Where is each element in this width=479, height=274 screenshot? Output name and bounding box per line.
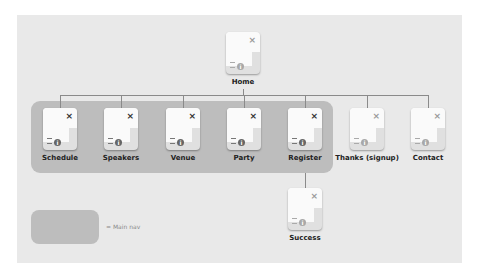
list-icon[interactable] [108,138,113,144]
list-icon[interactable] [354,138,359,144]
info-icon[interactable]: i [115,139,122,146]
page-card[interactable]: × i [226,32,260,74]
connector-drop [428,95,429,108]
list-icon[interactable] [170,138,175,144]
page-card[interactable]: × i [227,108,261,150]
info-icon[interactable]: i [361,139,368,146]
close-icon[interactable]: × [188,112,196,121]
page-card[interactable]: × i [288,108,322,150]
connector-drop [367,95,368,108]
info-icon[interactable]: i [422,139,429,146]
page-card[interactable]: × i [43,108,77,150]
close-icon[interactable]: × [126,112,134,121]
page-card[interactable]: × i [104,108,138,150]
info-icon[interactable]: i [54,139,61,146]
legend-swatch [31,210,99,244]
info-icon[interactable]: i [299,219,306,226]
page-node-contact[interactable]: × i Contact [388,108,468,170]
connector-drop [183,95,184,108]
close-icon[interactable]: × [372,112,380,121]
page-label: Success [265,234,345,242]
list-icon[interactable] [47,138,52,144]
legend-label: = Main nav [106,223,140,230]
list-icon[interactable] [231,138,236,144]
list-icon[interactable] [292,138,297,144]
page-card[interactable]: × i [166,108,200,150]
page-label: Home [203,78,283,86]
connector-drop [121,95,122,108]
info-icon[interactable]: i [177,139,184,146]
list-icon[interactable] [292,218,297,224]
page-node-home[interactable]: × i Home [203,32,283,94]
connector-drop [305,95,306,108]
close-icon[interactable]: × [310,192,318,201]
list-icon[interactable] [230,62,235,68]
page-label: Contact [388,154,468,162]
page-card[interactable]: × i [288,188,322,230]
info-icon[interactable]: i [238,139,245,146]
close-icon[interactable]: × [433,112,441,121]
info-icon[interactable]: i [237,63,244,70]
page-node-success[interactable]: × i Success [265,188,345,250]
connector-drop [244,95,245,108]
info-icon[interactable]: i [299,139,306,146]
close-icon[interactable]: × [248,36,256,45]
close-icon[interactable]: × [65,112,73,121]
page-card[interactable]: × i [350,108,384,150]
page-card[interactable]: × i [411,108,445,150]
list-icon[interactable] [415,138,420,144]
close-icon[interactable]: × [310,112,318,121]
connector-drop [60,95,61,108]
close-icon[interactable]: × [249,112,257,121]
connector-register-success [305,173,306,188]
